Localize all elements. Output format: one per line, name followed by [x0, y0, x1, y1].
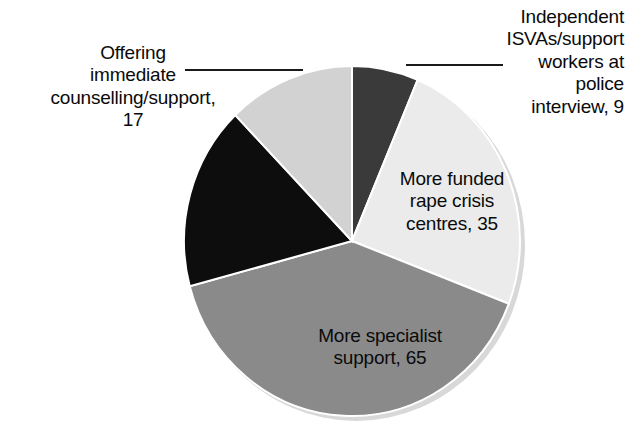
chart-plot-area: Independent ISVAs/support workers at pol… — [0, 0, 628, 439]
slice-label-more-funded-rape-crisis-centres: More funded rape crisis centres, 35 — [372, 168, 532, 235]
pie-chart-figure: Independent ISVAs/support workers at pol… — [0, 0, 628, 439]
slice-label-independent-isvas: Independent ISVAs/support workers at pol… — [428, 6, 624, 118]
slice-label-more-specialist-support: More specialist support, 65 — [280, 325, 480, 370]
slice-label-offering-immediate-counselling: Offering immediate counselling/support, … — [8, 42, 258, 132]
